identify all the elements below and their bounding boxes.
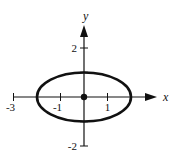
y-tick-label: 2 — [72, 42, 78, 54]
y-tick-label: -2 — [68, 140, 77, 152]
x-tick-label: 1 — [105, 101, 111, 113]
axes: x y — [14, 9, 170, 146]
y-axis-label: y — [82, 9, 89, 23]
x-axis-label: x — [162, 90, 169, 104]
x-tick-label: -1 — [53, 101, 62, 113]
x-tick-label: -3 — [6, 101, 16, 113]
center-point — [81, 94, 87, 100]
y-axis-arrow-icon — [80, 25, 88, 37]
x-axis-arrow-icon — [145, 93, 157, 101]
ellipse-chart: x y -3-112-2 — [0, 0, 180, 160]
